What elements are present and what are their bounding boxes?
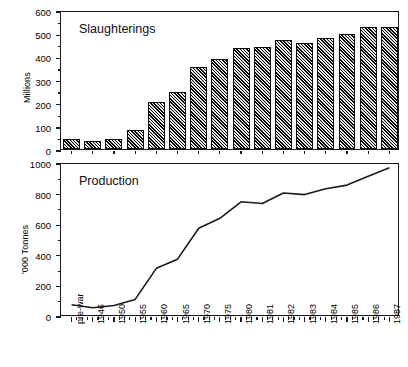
x-axis-minor-tick bbox=[108, 317, 109, 320]
bar bbox=[84, 141, 101, 149]
y-axis-tick-label: 200 bbox=[17, 99, 51, 110]
y-axis-major-tick bbox=[56, 127, 61, 128]
y-axis-major-tick bbox=[56, 150, 61, 151]
x-axis-tick-label: 1985 bbox=[350, 304, 360, 324]
x-axis-tick bbox=[219, 151, 220, 154]
x-axis-tick bbox=[283, 151, 284, 154]
x-axis-tick bbox=[177, 151, 178, 154]
y-axis-major-tick bbox=[56, 58, 61, 59]
bar bbox=[211, 59, 228, 149]
y-axis-minor-tick bbox=[58, 271, 61, 272]
x-axis-tick-label: 1955 bbox=[138, 304, 148, 324]
bar bbox=[275, 40, 292, 149]
y-axis-major-tick bbox=[56, 81, 61, 82]
y-axis-major-tick bbox=[56, 104, 61, 105]
y-axis-major-tick bbox=[56, 194, 61, 195]
x-axis-tick bbox=[325, 151, 326, 154]
x-axis-major-tick bbox=[71, 317, 72, 322]
slaughterings-plot-area: Slaughterings 0100200300400500600 bbox=[60, 11, 399, 150]
x-axis-major-tick bbox=[262, 317, 263, 322]
x-axis-minor-tick bbox=[256, 317, 257, 320]
x-axis-minor-tick bbox=[87, 317, 88, 320]
x-axis-tick-label: 1975 bbox=[223, 304, 233, 324]
x-axis-major-tick bbox=[346, 317, 347, 322]
y-axis-major-tick bbox=[56, 286, 61, 287]
x-axis-minor-tick bbox=[341, 317, 342, 320]
x-axis-tick-label: 1965 bbox=[181, 304, 191, 324]
y-axis-minor-tick bbox=[58, 92, 61, 93]
y-axis-minor-tick bbox=[58, 116, 61, 117]
y-axis-tick-label: 800 bbox=[17, 189, 51, 200]
y-axis-tick-label: 200 bbox=[17, 281, 51, 292]
x-axis-major-tick bbox=[135, 317, 136, 322]
x-axis-tick bbox=[240, 151, 241, 154]
y-axis-minor-tick bbox=[58, 69, 61, 70]
x-axis-tick bbox=[389, 151, 390, 154]
y-axis-minor-tick bbox=[58, 46, 61, 47]
x-axis-major-tick bbox=[240, 317, 241, 322]
x-axis-minor-tick bbox=[278, 317, 279, 320]
x-axis-tick-label: 1950 bbox=[117, 304, 127, 324]
x-axis-tick bbox=[304, 151, 305, 154]
x-axis-major-tick bbox=[92, 317, 93, 322]
y-axis-tick-label: 0 bbox=[17, 146, 51, 157]
bar bbox=[339, 34, 356, 149]
bar bbox=[254, 47, 271, 149]
x-axis-minor-tick bbox=[384, 317, 385, 320]
y-axis-minor-tick bbox=[58, 179, 61, 180]
x-axis-tick-label: 1970 bbox=[202, 304, 212, 324]
figure-root: Millions Slaughterings 01002003004005006… bbox=[0, 0, 408, 367]
y-axis-major-tick bbox=[56, 11, 61, 12]
x-axis-minor-tick bbox=[362, 317, 363, 320]
bar bbox=[127, 130, 144, 149]
x-axis-minor-tick bbox=[214, 317, 215, 320]
y-axis-tick-label: 600 bbox=[17, 7, 51, 18]
y-axis-minor-tick bbox=[58, 23, 61, 24]
bar bbox=[317, 38, 334, 149]
y-axis-tick-label: 500 bbox=[17, 30, 51, 41]
y-axis-tick-label: 400 bbox=[17, 250, 51, 261]
bar bbox=[296, 43, 313, 149]
x-axis-tick-label: 1946 bbox=[96, 304, 106, 324]
x-axis-tick-label: 1960 bbox=[159, 304, 169, 324]
x-axis-tick-label: pre-war bbox=[75, 293, 85, 324]
x-axis-tick-label: 1982 bbox=[286, 304, 296, 324]
bar bbox=[148, 102, 165, 149]
bar bbox=[360, 27, 377, 149]
production-line-svg bbox=[61, 164, 400, 317]
x-axis-minor-tick bbox=[129, 317, 130, 320]
x-axis-tick-label: 1987 bbox=[392, 304, 402, 324]
x-axis-major-tick bbox=[368, 317, 369, 322]
x-axis-major-tick bbox=[304, 317, 305, 322]
x-axis-tick bbox=[113, 151, 114, 154]
x-axis-minor-tick bbox=[193, 317, 194, 320]
y-axis-tick-label: 0 bbox=[17, 312, 51, 323]
bar bbox=[381, 27, 398, 149]
y-axis-tick-label: 1000 bbox=[17, 159, 51, 170]
x-axis-tick bbox=[198, 151, 199, 154]
x-axis-tick bbox=[156, 151, 157, 154]
x-axis-tick bbox=[368, 151, 369, 154]
x-axis-tick-label: 1986 bbox=[371, 304, 381, 324]
bar bbox=[63, 139, 80, 149]
y-axis-major-tick bbox=[56, 225, 61, 226]
bar bbox=[233, 48, 250, 149]
x-axis-tick bbox=[71, 151, 72, 154]
x-axis-major-tick bbox=[389, 317, 390, 322]
bar bbox=[190, 67, 207, 149]
x-axis-tick bbox=[262, 151, 263, 154]
y-axis-major-tick bbox=[56, 255, 61, 256]
y-axis-tick-label: 300 bbox=[17, 76, 51, 87]
y-axis-minor-tick bbox=[58, 209, 61, 210]
bar bbox=[169, 92, 186, 149]
x-axis-tick bbox=[92, 151, 93, 154]
x-axis-major-tick bbox=[283, 317, 284, 322]
y-axis-major-tick bbox=[56, 163, 61, 164]
slaughterings-title: Slaughterings bbox=[79, 22, 155, 36]
x-axis-tick-label: 1981 bbox=[265, 304, 275, 324]
x-axis-major-tick bbox=[219, 317, 220, 322]
x-axis-major-tick bbox=[113, 317, 114, 322]
production-plot-area: Production 02004006008001000 bbox=[60, 163, 399, 316]
x-axis-minor-tick bbox=[320, 317, 321, 320]
x-axis-minor-tick bbox=[299, 317, 300, 320]
